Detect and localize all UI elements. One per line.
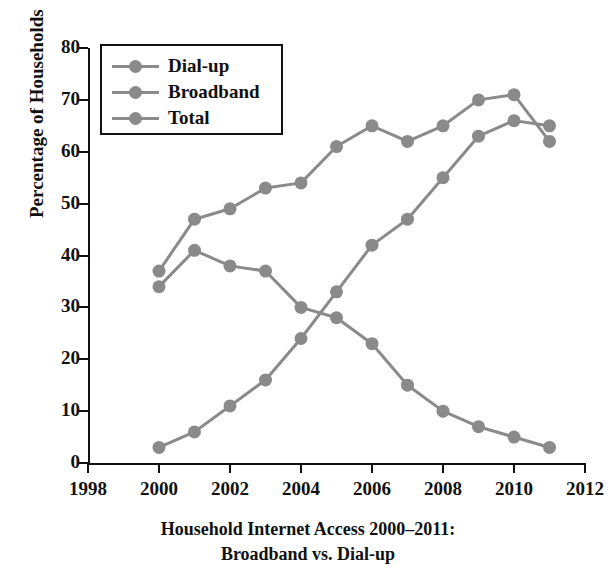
series-dial-up <box>153 244 557 454</box>
data-point-marker <box>472 93 485 106</box>
data-point-marker <box>543 135 556 148</box>
chart-title: Internet Access <box>0 0 616 7</box>
data-point-marker <box>401 135 414 148</box>
legend-marker-icon <box>112 59 159 73</box>
legend-label: Dial-up <box>168 55 229 77</box>
data-point-marker <box>366 239 379 252</box>
data-point-marker <box>259 182 272 195</box>
data-point-marker <box>259 374 272 387</box>
x-tick-label: 2008 <box>410 478 476 500</box>
data-point-marker <box>366 119 379 132</box>
data-point-marker <box>295 301 308 314</box>
x-tick-label: 1998 <box>55 478 121 500</box>
data-point-marker <box>543 441 556 454</box>
chart-caption: Household Internet Access 2000–2011: Bro… <box>0 517 616 567</box>
data-point-marker <box>330 140 343 153</box>
data-point-marker <box>224 399 237 412</box>
caption-line-1: Household Internet Access 2000–2011: <box>0 517 616 542</box>
data-point-marker <box>188 244 201 257</box>
y-tick-mark <box>79 255 88 257</box>
x-tick-label: 2010 <box>481 478 547 500</box>
data-point-marker <box>437 119 450 132</box>
legend-label: Total <box>168 107 210 129</box>
data-point-marker <box>472 130 485 143</box>
y-tick-mark <box>79 47 88 49</box>
data-point-marker <box>188 425 201 438</box>
data-point-marker <box>153 280 166 293</box>
y-tick-mark <box>79 99 88 101</box>
data-point-marker <box>508 431 521 444</box>
data-point-marker <box>401 213 414 226</box>
y-tick-label: 20 <box>36 348 80 367</box>
x-tick-label: 2004 <box>268 478 334 500</box>
legend-item-broadband[interactable]: Broadband <box>112 79 281 105</box>
y-axis-title: Percentage of Households <box>26 9 48 218</box>
series-line <box>159 250 550 447</box>
x-tick-label: 2000 <box>126 478 192 500</box>
data-point-marker <box>543 119 556 132</box>
data-point-marker <box>437 171 450 184</box>
y-tick-label: 0 <box>36 452 80 471</box>
series-broadband <box>153 114 557 454</box>
y-tick-mark <box>79 151 88 153</box>
x-tick-label: 2006 <box>339 478 405 500</box>
data-point-marker <box>295 332 308 345</box>
data-point-marker <box>295 176 308 189</box>
caption-line-2: Broadband vs. Dial-up <box>0 542 616 567</box>
data-point-marker <box>366 337 379 350</box>
y-tick-mark <box>79 203 88 205</box>
data-point-marker <box>330 285 343 298</box>
data-point-marker <box>224 202 237 215</box>
data-point-marker <box>472 420 485 433</box>
data-point-marker <box>259 265 272 278</box>
data-point-marker <box>224 259 237 272</box>
data-point-marker <box>330 311 343 324</box>
legend-marker-icon <box>112 85 159 99</box>
data-point-marker <box>437 405 450 418</box>
legend-item-total[interactable]: Total <box>112 105 281 131</box>
y-tick-label: 10 <box>36 400 80 419</box>
legend-label: Broadband <box>168 81 260 103</box>
legend: Dial-up Broadband Total <box>100 44 283 135</box>
data-point-marker <box>401 379 414 392</box>
legend-marker-icon <box>112 111 159 125</box>
y-tick-mark <box>79 306 88 308</box>
y-tick-label: 40 <box>36 245 80 264</box>
chart-figure: Internet Access 01020304050607080 199820… <box>0 0 616 572</box>
y-tick-label: 30 <box>36 296 80 315</box>
x-tick-label: 2012 <box>552 478 616 500</box>
data-point-marker <box>153 265 166 278</box>
data-point-marker <box>508 88 521 101</box>
data-point-marker <box>508 114 521 127</box>
series-line <box>159 121 550 448</box>
y-tick-mark <box>79 410 88 412</box>
data-point-marker <box>153 441 166 454</box>
y-tick-mark <box>79 358 88 360</box>
legend-item-dial-up[interactable]: Dial-up <box>112 53 281 79</box>
data-point-marker <box>188 213 201 226</box>
x-tick-label: 2002 <box>197 478 263 500</box>
